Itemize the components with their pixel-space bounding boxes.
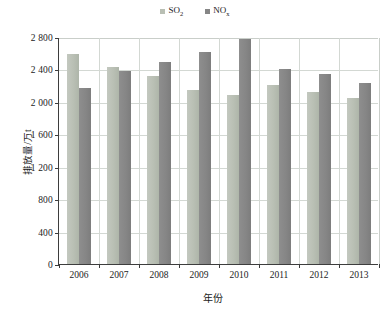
legend-label-so2: SO2 [168,6,183,17]
gridline-vertical [339,38,340,264]
gridline-vertical [299,38,300,264]
bar-so2-2007 [107,67,119,264]
y-axis-tick [55,70,59,71]
bar-so2-2009 [187,90,199,264]
x-axis-tick [179,264,180,268]
gridline-vertical [179,38,180,264]
x-axis-tick [219,264,220,268]
x-axis-tick [59,264,60,268]
x-axis-tick [339,264,340,268]
x-axis-tick-label: 2009 [190,270,209,280]
bar-so2-2008 [147,76,159,264]
gridline-vertical [99,38,100,264]
y-axis-tick-label: 2 400 [31,65,53,75]
x-axis-tick-label: 2006 [70,270,89,280]
bar-nox-2006 [79,88,91,264]
y-axis-tick [55,135,59,136]
x-axis-tick [139,264,140,268]
legend-item-so2: SO2 [160,6,183,17]
chart-container: SO2 NOx 排放量/万t 04008001 2001 6002 0002 4… [0,0,390,320]
y-axis-tick [55,233,59,234]
x-axis-tick-label: 2011 [270,270,289,280]
y-axis-tick-label: 2 800 [31,33,53,43]
bar-so2-2013 [347,98,359,264]
bar-nox-2008 [159,62,171,264]
gridline-vertical [379,38,380,264]
bar-nox-2013 [359,83,371,264]
bar-so2-2006 [67,54,79,264]
x-axis-tick-label: 2007 [110,270,129,280]
x-axis-tick [259,264,260,268]
x-axis-tick-label: 2013 [350,270,369,280]
bar-nox-2012 [319,74,331,264]
y-axis-tick-label: 2 000 [31,98,53,108]
chart-legend: SO2 NOx [0,6,390,17]
bar-nox-2010 [239,39,251,264]
y-axis-tick [55,200,59,201]
legend-item-nox: NOx [205,6,229,17]
y-axis-tick [55,38,59,39]
y-axis-tick-label: 400 [38,228,53,238]
y-axis-tick [55,168,59,169]
gridline-vertical [219,38,220,264]
y-axis-tick-label: 1 600 [31,130,53,140]
bar-nox-2007 [119,71,131,264]
legend-label-nox: NOx [213,6,229,17]
gridline-vertical [139,38,140,264]
y-axis-tick-label: 0 [48,260,53,270]
x-axis-tick-label: 2010 [230,270,249,280]
x-axis-tick [379,264,380,268]
y-axis-tick-label: 1 200 [31,163,53,173]
bar-so2-2012 [307,92,319,264]
plot-area: 04008001 2001 6002 0002 4002 80020062007… [58,38,378,265]
x-axis-tick-label: 2012 [310,270,329,280]
bar-so2-2011 [267,85,279,264]
x-axis-tick-label: 2008 [150,270,169,280]
legend-swatch-so2 [160,9,165,14]
bar-nox-2011 [279,69,291,264]
x-axis-tick [99,264,100,268]
y-axis-tick-label: 800 [38,195,53,205]
legend-swatch-nox [205,9,210,14]
bar-nox-2009 [199,52,211,264]
bar-so2-2010 [227,95,239,264]
y-axis-tick [55,103,59,104]
gridline-vertical [259,38,260,264]
x-axis-tick [299,264,300,268]
x-axis-title: 年份 [0,290,390,305]
